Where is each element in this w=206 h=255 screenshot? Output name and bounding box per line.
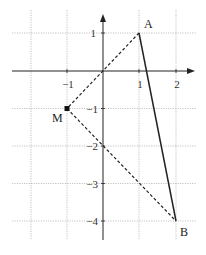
coordinate-diagram: −1 1 2 1 −1 −2 −3 −4 A B M xyxy=(0,0,206,255)
y-tick-label: −2 xyxy=(86,140,98,152)
y-axis-arrow-icon xyxy=(100,14,106,22)
y-tick-label: −4 xyxy=(86,215,98,227)
x-axis-arrow-icon xyxy=(187,68,195,74)
segment-ab xyxy=(139,33,176,221)
x-tick-label: 2 xyxy=(174,78,180,90)
point-b-label: B xyxy=(180,225,188,239)
x-tick-label: 1 xyxy=(137,78,143,90)
y-tick-label: −1 xyxy=(86,103,98,115)
y-tick-label: −3 xyxy=(86,178,98,190)
y-tick-label: 1 xyxy=(91,27,97,39)
segment-mb xyxy=(67,109,176,222)
point-m-label: M xyxy=(52,111,63,125)
x-tick-label: −1 xyxy=(62,78,74,90)
grid xyxy=(12,10,196,240)
point-a-label: A xyxy=(144,17,153,31)
point-m-marker xyxy=(65,106,70,111)
